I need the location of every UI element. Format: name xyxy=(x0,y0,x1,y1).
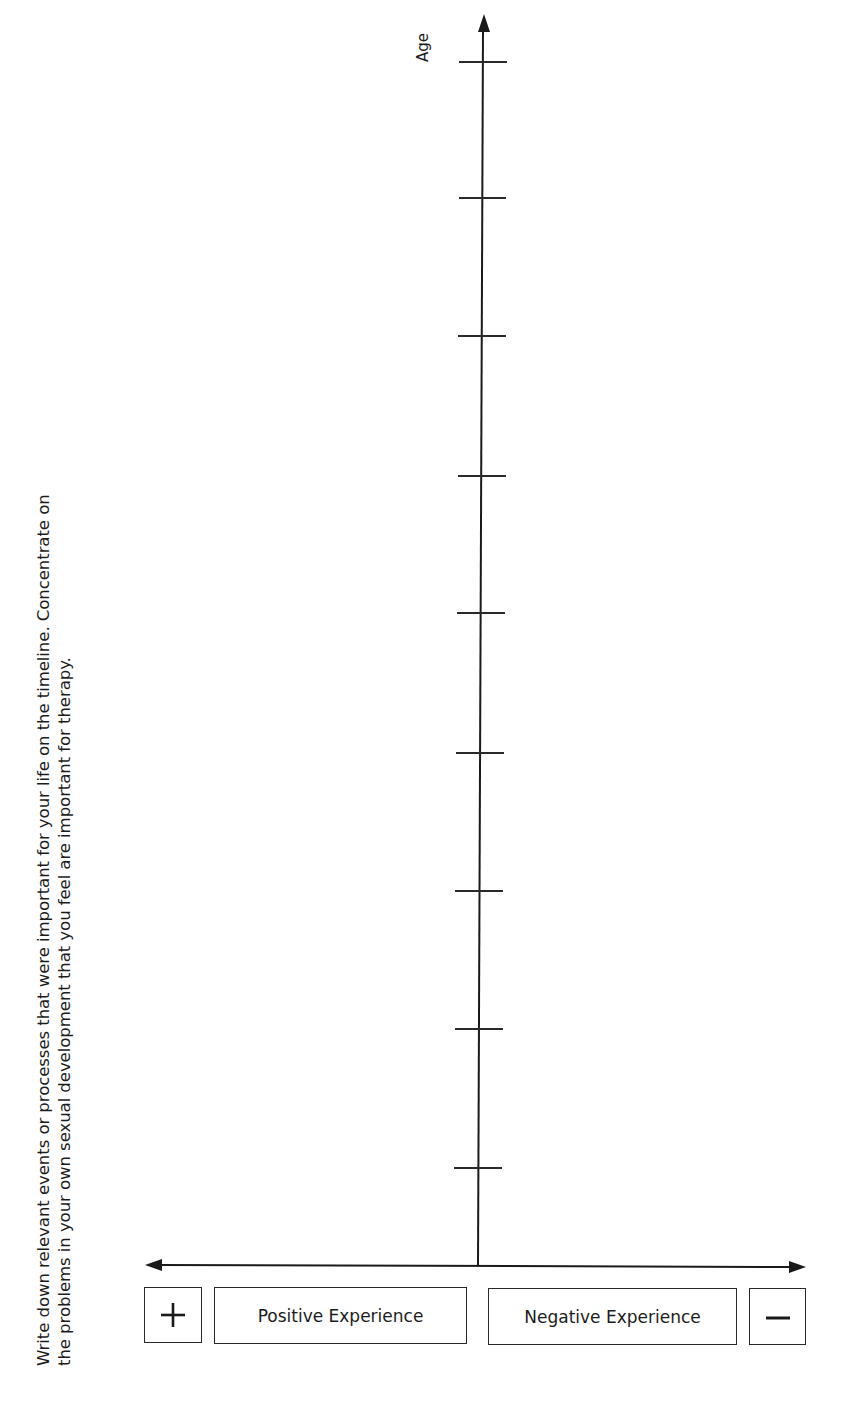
left-arrowhead-icon xyxy=(145,1259,162,1271)
negative-experience-label: Negative Experience xyxy=(524,1307,701,1327)
minus-icon xyxy=(763,1302,793,1332)
age-axis xyxy=(478,28,483,1266)
negative-symbol-box xyxy=(749,1288,806,1345)
negative-experience-label-box: Negative Experience xyxy=(488,1288,737,1345)
timeline-chart xyxy=(0,0,843,1428)
age-axis-arrowhead-icon xyxy=(478,14,490,32)
experience-axis xyxy=(158,1265,792,1267)
positive-experience-label-box: Positive Experience xyxy=(214,1287,467,1344)
right-arrowhead-icon xyxy=(789,1261,806,1273)
positive-experience-label: Positive Experience xyxy=(258,1306,424,1326)
positive-symbol-box xyxy=(144,1287,202,1343)
age-axis-label: Age xyxy=(414,33,432,62)
plus-icon xyxy=(158,1300,188,1330)
